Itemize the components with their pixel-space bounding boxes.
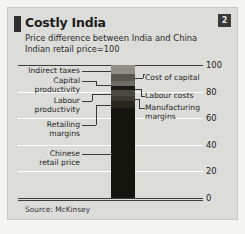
ytick-label-20: 20	[206, 166, 217, 176]
callout-retailing-margins-line2: margins	[18, 129, 80, 138]
connector-retailing-margins-h2	[96, 105, 111, 106]
connector-labour-productivity-h2	[92, 94, 111, 95]
connector-labour-costs-v	[141, 89, 142, 96]
bar-segment-indirect-taxes	[111, 65, 135, 74]
callout-labour-costs: Labour costs	[145, 91, 215, 100]
connector-cost-of-capital-h1	[135, 78, 143, 79]
bar-segment-chinese-retail-price	[111, 108, 135, 198]
callout-chinese-retail-price-line2: retail price	[18, 158, 80, 167]
callout-retailing-margins-line1: Retailing	[18, 120, 80, 129]
callout-manufacturing-margins-line1: Manufacturing	[145, 103, 220, 112]
bar-segment-labour-productivity	[111, 90, 135, 95]
callout-chinese-retail-price-line1: Chinese	[18, 149, 80, 158]
chart-title: Costly India	[25, 15, 106, 30]
bar-segment-capital-productivity	[111, 81, 135, 86]
bar-segment-manufacturing-margins	[111, 96, 135, 101]
ytick-label-40: 40	[206, 140, 217, 150]
connector-manufacturing-margins-v	[139, 99, 140, 108]
ytick-label-100: 100	[206, 60, 222, 70]
bar-segment-cost-of-capital	[111, 74, 135, 81]
bar-segment-retailing-margins	[111, 101, 135, 108]
connector-labour-productivity-h1	[82, 101, 92, 102]
connector-chinese-retail-price	[82, 154, 111, 155]
chart-panel: Costly India Price difference between In…	[7, 7, 238, 220]
callout-capital-productivity-line1: Capital	[18, 76, 80, 85]
callout-labour-productivity-line2: productivity	[18, 105, 80, 114]
chart-source: Source: McKinsey	[25, 205, 90, 214]
chart-figure: Costly India Price difference between In…	[0, 0, 245, 234]
figure-number-badge: 2	[218, 14, 231, 27]
axis-line-0	[18, 198, 203, 199]
callout-cost-of-capital: Cost of capital	[145, 73, 215, 82]
callout-indirect-taxes: Indirect taxes	[18, 66, 80, 75]
bar-segment-labour-costs	[111, 86, 135, 90]
callout-labour-productivity-line1: Labour	[18, 96, 80, 105]
ytick-label-0: 0	[206, 193, 211, 203]
connector-capital-productivity-h2	[96, 85, 111, 86]
connector-cost-of-capital-h2	[143, 74, 145, 75]
title-accent-bar	[14, 16, 21, 32]
plot-area: 100 80 60 40 20 0 Indirect taxes	[18, 65, 228, 198]
connector-indirect-taxes	[82, 71, 111, 72]
connector-capital-productivity-h1	[82, 81, 96, 82]
callout-capital-productivity-line2: productivity	[18, 85, 80, 94]
connector-retailing-margins-v	[96, 105, 97, 125]
callout-manufacturing-margins-line2: margins	[145, 112, 220, 121]
connector-retailing-margins-h1	[82, 125, 96, 126]
connector-manufacturing-margins-h2	[139, 108, 145, 109]
footer-divider	[18, 200, 203, 201]
connector-labour-productivity-v	[92, 94, 93, 102]
chart-subtitle: Price difference between India and China	[25, 33, 197, 43]
connector-labour-costs-h2	[141, 96, 145, 97]
chart-subtitle-note: Indian retail price=100	[25, 44, 119, 54]
